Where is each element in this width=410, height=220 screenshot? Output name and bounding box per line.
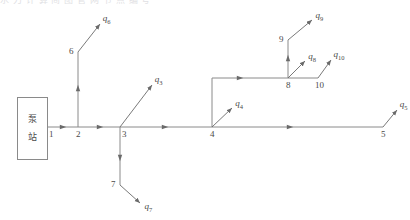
- pump-station-char-bottom: 站: [28, 129, 37, 146]
- demand-label-subscript-q6: 6: [107, 18, 110, 25]
- network-canvas: [0, 0, 410, 220]
- demand-arrow-q5: [383, 110, 397, 127]
- node-label-7: 7: [111, 180, 116, 189]
- demand-label-q8: q8: [308, 52, 316, 63]
- flow-direction-marker-m23: [97, 125, 103, 129]
- pump-station-box: 泵 站: [17, 97, 48, 160]
- demand-label-q7: q7: [144, 202, 152, 213]
- demand-arrow-q3: [120, 85, 152, 127]
- node-label-2: 2: [76, 130, 81, 139]
- flow-direction-marker-m34: [162, 125, 168, 129]
- node-label-8: 8: [286, 81, 291, 90]
- demand-arrow-q8: [288, 61, 305, 78]
- flow-direction-marker-m26: [76, 85, 80, 91]
- demand-label-q9: q9: [316, 11, 324, 22]
- pump-station-char-top: 泵: [28, 111, 37, 128]
- node-label-5: 5: [381, 130, 386, 139]
- flow-direction-marker-m37: [118, 155, 122, 161]
- pipe-network-diagram: 水 力 计 算 简 图 管 网 节 点 编 号 泵 站 q3q4q5q6q7q8…: [0, 0, 410, 220]
- pipe-4-8: [212, 78, 288, 127]
- demand-label-subscript-q4: 4: [240, 103, 243, 110]
- node-label-4: 4: [210, 130, 215, 139]
- node-label-10: 10: [315, 81, 324, 90]
- flow-direction-marker-m12: [60, 125, 66, 129]
- demand-label-subscript-q10: 10: [338, 54, 345, 61]
- demand-arrow-q4: [212, 108, 232, 127]
- node-label-6: 6: [69, 47, 74, 56]
- flow-direction-marker-m45: [287, 125, 293, 129]
- demand-label-q3: q3: [155, 75, 163, 86]
- node-label-3: 3: [122, 130, 127, 139]
- flow-direction-marker-m89: [286, 55, 290, 61]
- demand-label-q10: q10: [334, 50, 345, 61]
- flow-direction-marker-m48: [237, 76, 243, 80]
- demand-label-q4: q4: [235, 99, 243, 110]
- demand-label-subscript-q9: 9: [320, 15, 323, 22]
- demand-arrow-q9: [288, 20, 312, 40]
- node-label-9: 9: [279, 35, 284, 44]
- pipes-layer: [48, 40, 383, 185]
- demand-arrow-q10: [318, 60, 331, 78]
- demand-label-q5: q5: [400, 100, 408, 111]
- demand-flow-arrows-layer: [78, 20, 397, 203]
- demand-arrow-q6: [78, 24, 100, 52]
- demand-arrow-q7: [120, 185, 140, 203]
- flow-direction-markers-layer: [60, 55, 293, 161]
- demand-label-subscript-q8: 8: [313, 56, 316, 63]
- demand-label-q6: q6: [103, 14, 111, 25]
- demand-label-subscript-q3: 3: [159, 79, 162, 86]
- demand-label-subscript-q5: 5: [404, 104, 407, 111]
- node-label-1: 1: [49, 130, 54, 139]
- demand-label-subscript-q7: 7: [149, 206, 152, 213]
